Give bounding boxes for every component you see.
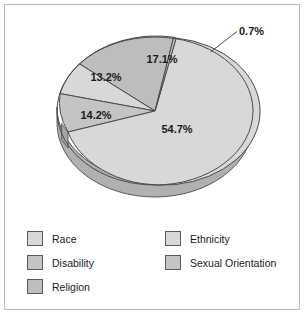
legend-swatch-religion-icon [27,279,43,294]
pie-label-ethnicity: 13.2% [90,71,121,83]
legend-label-disability: Disability [52,257,94,269]
pie-label-religion: 17.1% [146,53,177,65]
legend-item-ethnicity[interactable]: Ethnicity [165,227,276,250]
callout-leader-line [211,32,238,53]
pie-label-race: 54.7% [161,123,192,135]
pie-label-sexual-orientation: 0.7% [239,25,264,37]
chart-legend: Race Disability Religion Ethnicity Sexua… [5,217,299,309]
legend-swatch-disability-icon [27,255,43,270]
legend-item-religion[interactable]: Religion [27,275,94,298]
legend-label-ethnicity: Ethnicity [190,233,230,245]
legend-item-race[interactable]: Race [27,227,94,250]
legend-swatch-ethnicity-icon [165,231,181,246]
legend-label-religion: Religion [52,281,90,293]
pie-label-disability: 14.2% [80,109,111,121]
legend-label-sexual-orientation: Sexual Orientation [190,257,276,269]
legend-item-sexual-orientation[interactable]: Sexual Orientation [165,251,276,274]
pie-chart-svg: 17.1% 13.2% 14.2% 54.7% 0.7% [5,5,299,213]
pie-chart-area: 17.1% 13.2% 14.2% 54.7% 0.7% [5,5,299,213]
legend-column-right: Ethnicity Sexual Orientation [165,227,276,275]
legend-swatch-sexual-orientation-icon [165,255,181,270]
legend-column-left: Race Disability Religion [27,227,94,299]
legend-label-race: Race [52,233,77,245]
legend-item-disability[interactable]: Disability [27,251,94,274]
chart-figure-frame: 17.1% 13.2% 14.2% 54.7% 0.7% Race Disabi… [4,4,300,310]
legend-swatch-race-icon [27,231,43,246]
